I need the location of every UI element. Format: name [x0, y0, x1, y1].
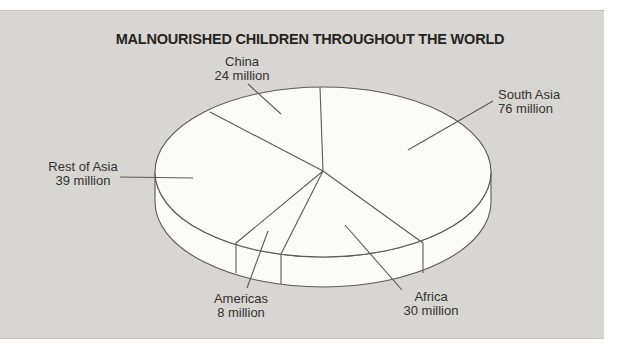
label-rest-of-asia-value: 39 million	[33, 174, 133, 188]
label-china: China 24 million	[202, 55, 282, 83]
label-rest-of-asia: Rest of Asia 39 million	[33, 160, 133, 188]
label-china-name: China	[202, 55, 282, 69]
label-americas: Americas 8 million	[191, 292, 291, 320]
label-china-value: 24 million	[202, 69, 282, 83]
label-rest-of-asia-name: Rest of Asia	[33, 160, 133, 174]
label-africa: Africa 30 million	[381, 290, 481, 318]
label-africa-value: 30 million	[381, 304, 481, 318]
figure-canvas: MALNOURISHED CHILDREN THROUGHOUT THE WOR…	[0, 0, 627, 354]
label-africa-name: Africa	[381, 290, 481, 304]
label-south-asia-name: South Asia	[498, 88, 560, 102]
label-americas-value: 8 million	[191, 306, 291, 320]
label-south-asia-value: 76 million	[498, 102, 560, 116]
label-americas-name: Americas	[191, 292, 291, 306]
label-south-asia: South Asia 76 million	[498, 88, 560, 116]
